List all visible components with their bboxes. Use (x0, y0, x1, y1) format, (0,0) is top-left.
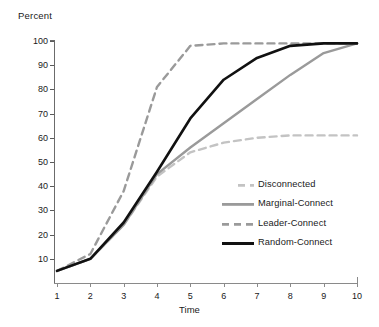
legend-swatch-icon (222, 175, 254, 193)
y-tick-label: 60 (24, 133, 48, 143)
x-axis-label: Time (0, 304, 379, 315)
y-tick-label: 70 (24, 109, 48, 119)
legend-label: Random-Connect (258, 237, 332, 247)
x-tick-mark (357, 283, 358, 287)
x-tick-mark (257, 283, 258, 287)
y-tick-label: 90 (24, 60, 48, 70)
x-tick-mark (90, 283, 91, 287)
x-tick-mark (224, 283, 225, 287)
legend-item-leader-connect[interactable]: Leader-Connect (258, 213, 374, 233)
x-tick-label: 8 (288, 291, 293, 301)
legend-label: Leader-Connect (258, 218, 326, 228)
y-tick-label: 100 (24, 36, 48, 46)
legend-swatch-icon (222, 194, 254, 212)
x-tick-label: 4 (154, 291, 159, 301)
x-tick-mark (290, 283, 291, 287)
x-tick-label: 3 (121, 291, 126, 301)
legend-label: Marginal-Connect (258, 198, 333, 208)
x-tick-mark (324, 283, 325, 287)
x-tick-label: 2 (88, 291, 93, 301)
x-tick-label: 1 (54, 291, 59, 301)
chart-figure: Percent Time 102030405060708090100 12345… (0, 0, 379, 327)
x-tick-mark (57, 283, 58, 287)
y-tick-label: 10 (24, 254, 48, 264)
y-tick-label: 40 (24, 181, 48, 191)
legend-swatch-icon (222, 233, 254, 251)
y-tick-label: 80 (24, 84, 48, 94)
x-tick-label: 5 (188, 291, 193, 301)
x-tick-mark (190, 283, 191, 287)
x-tick-label: 7 (254, 291, 259, 301)
legend-item-random-connect[interactable]: Random-Connect (258, 233, 374, 253)
chart-legend: DisconnectedMarginal-ConnectLeader-Conne… (258, 174, 374, 252)
x-tick-label: 9 (321, 291, 326, 301)
x-axis-line (54, 283, 358, 284)
legend-label: Disconnected (258, 179, 316, 189)
legend-swatch-icon (222, 214, 254, 232)
y-tick-label: 50 (24, 157, 48, 167)
legend-item-disconnected[interactable]: Disconnected (258, 174, 374, 194)
x-tick-label: 6 (221, 291, 226, 301)
y-tick-label: 20 (24, 230, 48, 240)
y-axis-label: Percent (18, 10, 52, 21)
legend-item-marginal-connect[interactable]: Marginal-Connect (258, 194, 374, 214)
x-tick-label: 10 (352, 291, 362, 301)
x-tick-mark (124, 283, 125, 287)
y-tick-label: 30 (24, 205, 48, 215)
x-tick-mark (157, 283, 158, 287)
